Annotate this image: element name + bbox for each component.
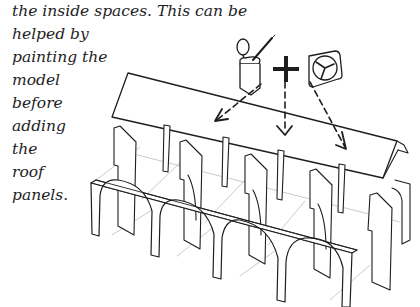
paint-bottle-icon	[237, 35, 275, 95]
clock-icon	[309, 51, 342, 87]
roof-assembly-illustration	[0, 0, 420, 307]
plus-icon	[275, 58, 297, 80]
